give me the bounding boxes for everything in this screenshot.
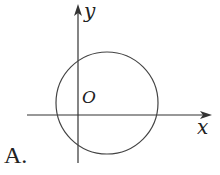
circle xyxy=(56,52,158,154)
y-axis-label: y xyxy=(84,1,95,21)
origin-label: O xyxy=(82,89,96,106)
x-axis-label: x xyxy=(197,117,208,137)
diagram-canvas: y O x A. xyxy=(0,0,220,175)
option-label: A. xyxy=(4,143,27,167)
coordinate-plot xyxy=(0,0,220,175)
